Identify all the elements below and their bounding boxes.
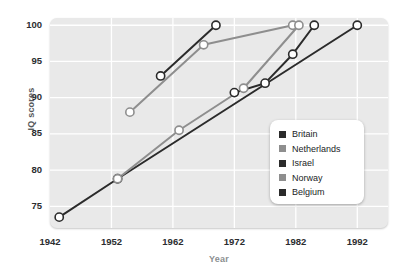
data-point-belgium-3 — [310, 21, 318, 29]
data-point-netherlands-0 — [126, 108, 134, 116]
chart-legend: BritainNetherlandsIsraelNorwayBelgium — [270, 120, 364, 204]
legend-item-netherlands[interactable]: Netherlands — [279, 142, 341, 156]
legend-label: Israel — [292, 158, 314, 168]
x-tick-label-1942: 1942 — [28, 236, 72, 247]
legend-swatch-icon — [279, 189, 286, 196]
data-point-norway-0 — [114, 175, 122, 183]
y-tick-label-80: 80 — [8, 164, 42, 175]
data-point-israel-1 — [212, 21, 220, 29]
x-tick-label-1972: 1972 — [212, 236, 256, 247]
data-point-britain-0 — [55, 213, 63, 221]
data-point-norway-2 — [239, 84, 247, 92]
x-tick-label-1952: 1952 — [89, 236, 133, 247]
data-point-britain-2 — [353, 21, 361, 29]
series-line-israel — [161, 25, 216, 76]
legend-swatch-icon — [279, 131, 286, 138]
data-point-belgium-2 — [289, 50, 297, 58]
data-point-belgium-1 — [261, 79, 269, 87]
y-tick-label-85: 85 — [8, 127, 42, 138]
legend-swatch-icon — [279, 145, 286, 152]
legend-label: Norway — [292, 173, 323, 183]
data-point-netherlands-1 — [200, 41, 208, 49]
legend-label: Netherlands — [292, 144, 341, 154]
legend-item-britain[interactable]: Britain — [279, 127, 318, 141]
y-tick-label-90: 90 — [8, 91, 42, 102]
data-point-norway-1 — [175, 126, 183, 134]
x-tick-label-1962: 1962 — [151, 236, 195, 247]
iq-scores-line-chart: 7580859095100 194219521962197219821992 I… — [0, 0, 411, 273]
legend-item-israel[interactable]: Israel — [279, 156, 314, 170]
y-tick-label-75: 75 — [8, 200, 42, 211]
legend-label: Belgium — [292, 187, 325, 197]
x-axis-title: Year — [50, 254, 388, 264]
legend-item-belgium[interactable]: Belgium — [279, 185, 325, 199]
legend-swatch-icon — [279, 160, 286, 167]
legend-swatch-icon — [279, 174, 286, 181]
x-tick-label-1992: 1992 — [335, 236, 379, 247]
data-point-israel-0 — [157, 72, 165, 80]
y-tick-label-100: 100 — [8, 19, 42, 30]
y-axis-title: IQ scores — [26, 69, 36, 149]
legend-item-norway[interactable]: Norway — [279, 171, 323, 185]
y-tick-label-95: 95 — [8, 55, 42, 66]
series-line-netherlands — [130, 25, 293, 112]
data-point-belgium-0 — [230, 88, 238, 96]
x-tick-label-1982: 1982 — [274, 236, 318, 247]
data-point-norway-3 — [295, 21, 303, 29]
legend-label: Britain — [292, 129, 318, 139]
